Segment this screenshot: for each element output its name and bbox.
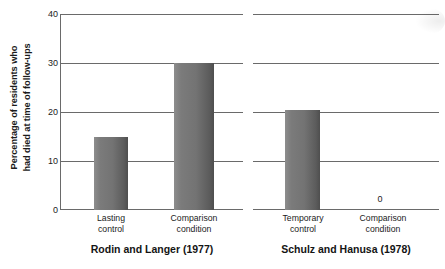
gridline-30-right xyxy=(253,63,439,64)
category-label-comparison-condition-right: Comparison condition xyxy=(360,213,407,236)
value-label-comparison-condition-right: 0 xyxy=(377,194,382,204)
plot-area-left xyxy=(61,14,243,210)
y-tick-30: 30 xyxy=(36,58,58,68)
bar-comparison-condition-left xyxy=(174,63,214,210)
y-tick-0: 0 xyxy=(36,205,58,215)
y-tick-10: 10 xyxy=(36,156,58,166)
category-label-line-2: control xyxy=(282,224,323,235)
y-axis-label-line-1: Percentage of residents who xyxy=(8,43,21,171)
category-label-line-1: Temporary xyxy=(282,213,323,224)
category-label-line-1: Comparison xyxy=(171,213,218,224)
category-label-line-2: control xyxy=(97,224,125,235)
y-axis-ticks: 40 30 20 10 0 xyxy=(36,0,58,215)
category-labels-left: Lasting control Comparison condition xyxy=(61,213,243,241)
gridline-40-left xyxy=(61,14,243,15)
panel-schulz-hanusa: 0 xyxy=(253,14,439,210)
y-tick-20: 20 xyxy=(36,107,58,117)
gridline-20-left xyxy=(61,112,243,113)
plot-area-right: 0 xyxy=(253,14,439,210)
category-label-line-1: Comparison xyxy=(360,213,407,224)
category-label-lasting-control: Lasting control xyxy=(97,213,125,236)
category-label-temporary-control: Temporary control xyxy=(282,213,323,236)
baseline-left xyxy=(61,209,243,210)
gridline-10-left xyxy=(61,161,243,162)
category-label-comparison-condition-left: Comparison condition xyxy=(171,213,218,236)
category-labels-right: Temporary control Comparison condition xyxy=(253,213,439,241)
panel-title-schulz-hanusa: Schulz and Hanusa (1978) xyxy=(253,243,439,255)
y-axis-label-line-2: had died at time of follow-ups xyxy=(20,43,33,171)
category-label-line-2: condition xyxy=(360,224,407,235)
category-label-line-1: Lasting xyxy=(97,213,125,224)
gridline-10-right xyxy=(253,161,439,162)
category-label-line-2: condition xyxy=(171,224,218,235)
gridline-30-left xyxy=(61,63,243,64)
panel-title-rodin-langer: Rodin and Langer (1977) xyxy=(61,243,243,255)
y-axis-label: Percentage of residents who had died at … xyxy=(0,0,40,215)
y-tick-40: 40 xyxy=(36,9,58,19)
gridline-40-right xyxy=(253,14,439,15)
baseline-right xyxy=(253,209,439,210)
bar-lasting-control xyxy=(94,137,128,211)
bar-temporary-control xyxy=(285,110,320,211)
gridline-20-right xyxy=(253,112,439,113)
figure: Percentage of residents who had died at … xyxy=(0,0,445,269)
panel-rodin-langer xyxy=(61,14,243,210)
